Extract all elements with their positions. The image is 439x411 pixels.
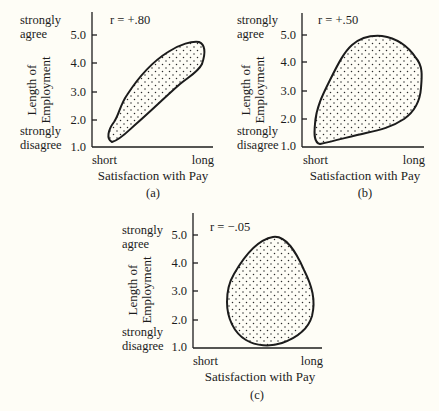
x-axis-title: Satisfaction with Pay	[205, 369, 316, 384]
x-tick-label-low: short	[92, 153, 118, 167]
correlation-label: r = +.80	[110, 13, 150, 27]
y-tick-label-2: 2.0	[70, 113, 86, 127]
x-tick-label-high: long	[403, 153, 426, 167]
y-axis-title: Length of Employment	[238, 56, 267, 124]
panel-caption: (c)	[250, 388, 264, 402]
y-anchor-bottom-line2: disagree	[20, 138, 62, 152]
y-tick-label-4: 4.0	[280, 55, 296, 69]
y-tick-label-1: 1.0	[280, 139, 296, 153]
correlation-label: r = +.50	[318, 13, 358, 27]
panel-b: strongly agree strongly disagree Length …	[237, 13, 426, 200]
y-tick-label-2: 2.0	[280, 112, 296, 126]
y-axis-title: Length of Employment	[24, 56, 53, 124]
y-tick-label-3: 3.0	[70, 85, 86, 99]
y-tick-label-4: 4.0	[70, 56, 86, 70]
y-tick-label-1: 1.0	[70, 140, 86, 154]
y-axis-title-line1: Length of	[238, 64, 253, 116]
x-tick-label-low: short	[193, 354, 219, 368]
y-anchor-bottom-line1: strongly	[237, 124, 279, 138]
y-axis-title-line2: Employment	[38, 56, 53, 124]
panel-caption: (b)	[358, 186, 373, 200]
panel-c: strongly agree strongly disagree Length …	[122, 213, 324, 402]
panel-caption: (a)	[146, 186, 160, 200]
y-tick-label-5: 5.0	[171, 228, 187, 242]
x-tick-label-low: short	[303, 153, 329, 167]
y-anchor-top-line1: strongly	[237, 13, 279, 27]
y-anchor-top-line2: agree	[122, 237, 150, 251]
y-anchor-top-line1: strongly	[20, 13, 62, 27]
y-tick-label-2: 2.0	[171, 313, 187, 327]
scatter-cloud	[108, 42, 204, 142]
y-axis-title-line1: Length of	[125, 264, 140, 316]
y-axis-title: Length of Employment	[125, 256, 154, 324]
figure-canvas: strongly agree strongly disagree Length …	[0, 0, 439, 411]
x-axis-title: Satisfaction with Pay	[98, 168, 209, 183]
y-tick-label-3: 3.0	[280, 84, 296, 98]
y-axis-title-line2: Employment	[139, 256, 154, 324]
panel-a: strongly agree strongly disagree Length …	[20, 12, 215, 200]
y-anchor-bottom-line1: strongly	[20, 124, 62, 138]
y-anchor-bottom-line2: disagree	[122, 339, 164, 353]
scatter-cloud	[227, 237, 314, 346]
y-anchor-top-line2: agree	[237, 27, 265, 41]
y-anchor-bottom-line1: strongly	[122, 325, 164, 339]
y-anchor-top-line2: agree	[20, 27, 48, 41]
y-tick-label-4: 4.0	[171, 256, 187, 270]
y-tick-label-1: 1.0	[171, 340, 187, 354]
x-tick-label-high: long	[301, 354, 324, 368]
y-tick-label-3: 3.0	[171, 284, 187, 298]
correlation-scatter-figure: strongly agree strongly disagree Length …	[0, 0, 439, 411]
y-tick-label-5: 5.0	[70, 28, 86, 42]
correlation-label: r = −.05	[210, 220, 250, 234]
y-axis-title-line2: Employment	[252, 56, 267, 124]
x-axis-title: Satisfaction with Pay	[310, 168, 421, 183]
y-axis-title-line1: Length of	[24, 64, 39, 116]
x-tick-label-high: long	[192, 153, 215, 167]
y-tick-label-5: 5.0	[280, 28, 296, 42]
y-anchor-top-line1: strongly	[122, 223, 164, 237]
scatter-cloud	[315, 36, 422, 144]
y-anchor-bottom-line2: disagree	[237, 138, 279, 152]
